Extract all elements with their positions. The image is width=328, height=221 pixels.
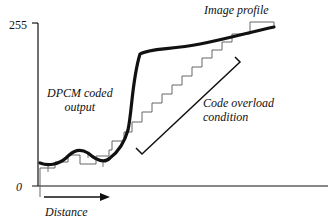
overload-label: Code overload condition (203, 96, 274, 124)
overload-label-line2: condition (203, 110, 274, 124)
distance-arrow-icon (44, 192, 110, 202)
y-max-label: 255 (9, 19, 27, 31)
x-axis-label: Distance (45, 206, 88, 218)
y-min-label: 0 (16, 181, 22, 193)
dpcm-diagram: 255 0 Image profile DPCM coded output Co… (0, 0, 328, 221)
overload-label-line1: Code overload (203, 96, 274, 110)
dpcm-label: DPCM coded output (47, 86, 113, 114)
dpcm-label-line2: output (47, 100, 113, 114)
image-profile-label: Image profile (204, 4, 269, 16)
dpcm-label-line1: DPCM coded (47, 86, 113, 100)
